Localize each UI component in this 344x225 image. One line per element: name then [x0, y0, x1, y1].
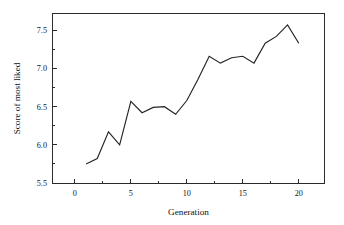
x-tick-label-15: 15 [239, 189, 247, 198]
y-tick-label-7.5: 7.5 [37, 26, 47, 35]
x-tick-label-20: 20 [295, 189, 303, 198]
line-chart: 05101520 5.56.06.57.07.5 Generation Scor… [0, 0, 344, 225]
y-tick-label-6.0: 6.0 [37, 141, 47, 150]
y-tick-label-6.5: 6.5 [37, 103, 47, 112]
chart-figure: 05101520 5.56.06.57.07.5 Generation Scor… [0, 0, 344, 225]
x-tick-label-10: 10 [183, 189, 191, 198]
x-tick-label-5: 5 [129, 189, 133, 198]
x-axis-title: Generation [168, 207, 209, 217]
x-tick-label-0: 0 [73, 189, 77, 198]
y-tick-label-7.0: 7.0 [37, 64, 47, 73]
y-tick-label-5.5: 5.5 [37, 179, 47, 188]
y-axis-title: Score of most liked [12, 62, 22, 134]
